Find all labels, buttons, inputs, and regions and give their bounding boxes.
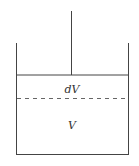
label-V: V: [68, 119, 77, 132]
label-dV: dV: [65, 83, 81, 96]
piston-cylinder-diagram: dV V: [0, 0, 139, 166]
